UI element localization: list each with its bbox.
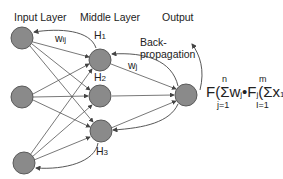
middle-layer-label: Middle Layer (80, 12, 140, 23)
sum1-lower-limit: j=1 (217, 101, 229, 110)
output-label: Output (162, 12, 194, 23)
sum1-upper-limit: n (222, 75, 227, 84)
input-node-3 (13, 152, 35, 174)
hidden-node-h2 (89, 85, 111, 107)
hidden-node-h3 (90, 120, 112, 142)
input-node-2 (11, 86, 33, 108)
output-formula: F(Σwj•Fj(Σx1wij)) (206, 84, 283, 99)
input-layer-label: Input Layer (14, 12, 67, 23)
h1-label: H1 (94, 30, 106, 41)
input-node-1 (11, 27, 33, 49)
backprop-label-1: Back- (140, 37, 167, 48)
weight-wj-label: wj (128, 60, 137, 71)
sum2-lower-limit: I=1 (256, 101, 269, 110)
hidden-node-h1 (89, 49, 111, 71)
weight-wij-label: wij (55, 33, 66, 44)
output-node (175, 84, 197, 106)
h3-label: H3 (96, 146, 108, 157)
backprop-label-2: propagation (140, 49, 195, 60)
h2-label: H2 (94, 72, 106, 83)
sum2-upper-limit: m (259, 75, 267, 84)
